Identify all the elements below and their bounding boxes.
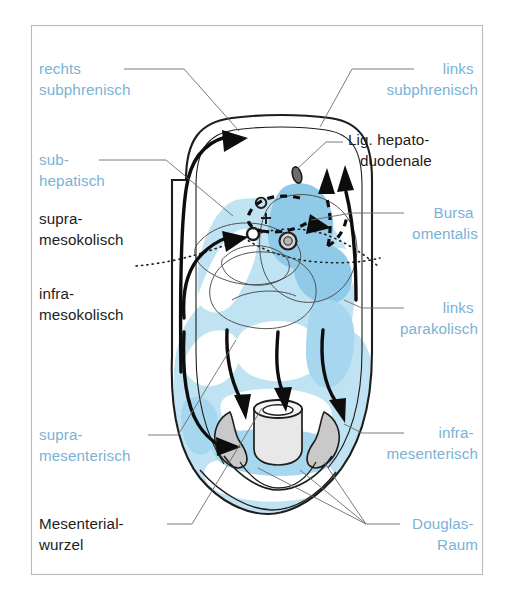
abdominal-cavity-diagram: rechts subphrenisch sub- hepatisch supra… [0, 0, 514, 599]
label-line: infra- [438, 424, 473, 441]
label-line: subphrenisch [386, 81, 478, 98]
label-line: rechts [39, 60, 81, 77]
label-line: Douglas- [412, 515, 474, 532]
label-line: mesokolisch [39, 306, 124, 323]
label-line: mesenterisch [39, 447, 131, 464]
anatomy-figure: rechts subphrenisch sub- hepatisch supra… [0, 0, 514, 599]
label-line: Raum [437, 536, 478, 553]
label-line: Lig. hepato- [348, 131, 429, 148]
label-line: supra- [39, 426, 83, 443]
label-line: Mesenterial- [39, 515, 124, 532]
label-line: Bursa [433, 204, 474, 221]
rectum-rim-inner [263, 405, 293, 415]
label-line: duodenale [360, 152, 432, 169]
label-line: wurzel [38, 536, 84, 553]
label-line: infra- [39, 285, 74, 302]
label-line: mesenterisch [386, 445, 478, 462]
label-line: parakolisch [400, 320, 478, 337]
label-line: links [443, 60, 474, 77]
label-line: links [443, 299, 474, 316]
label-line: sub- [39, 151, 69, 168]
label-line: subphrenisch [39, 81, 131, 98]
aorta-marker-inner [284, 237, 292, 245]
label-line: omentalis [412, 225, 478, 242]
label-line: supra- [39, 210, 83, 227]
vena-cava-marker [247, 228, 259, 240]
label-line: hepatisch [39, 172, 105, 189]
label-line: mesokolisch [39, 231, 124, 248]
